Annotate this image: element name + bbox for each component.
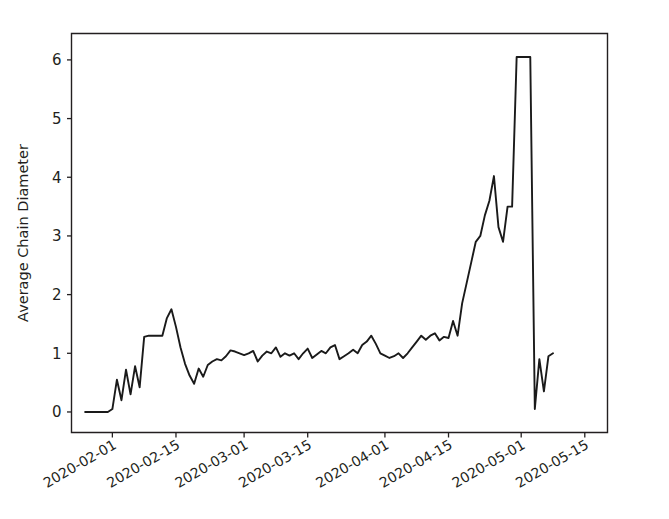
data-series-group (85, 57, 553, 412)
y-tick-label: 3 (52, 227, 62, 245)
data-line (85, 57, 553, 412)
plot-border (72, 34, 608, 433)
plot-frame (72, 34, 608, 433)
y-tick-label: 2 (52, 286, 62, 304)
y-tick-label: 1 (52, 345, 62, 363)
x-tick-label: 2020-05-15 (513, 436, 591, 491)
x-tick-label: 2020-04-15 (377, 436, 455, 491)
y-tick-label: 5 (52, 110, 62, 128)
y-axis-title: Average Chain Diameter (15, 144, 31, 322)
y-axis-ticks: 0123456 (52, 51, 72, 421)
line-chart: 0123456 2020-02-012020-02-152020-03-0120… (0, 0, 669, 519)
y-tick-label: 0 (52, 403, 62, 421)
y-axis-title-group: Average Chain Diameter (15, 144, 31, 322)
chart-figure: 0123456 2020-02-012020-02-152020-03-0120… (0, 0, 669, 519)
y-tick-label: 4 (52, 169, 62, 187)
x-axis-ticks: 2020-02-012020-02-152020-03-012020-03-15… (40, 433, 591, 491)
x-tick-label: 2020-03-15 (236, 436, 314, 491)
x-tick-label: 2020-02-15 (104, 436, 182, 491)
y-tick-label: 6 (52, 51, 62, 69)
